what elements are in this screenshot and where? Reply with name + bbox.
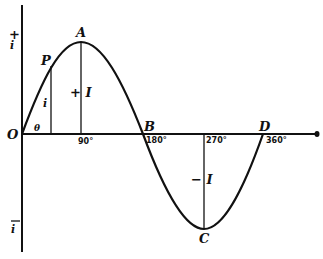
point-c-label: C <box>199 232 209 245</box>
point-o-label: O <box>7 128 18 141</box>
sine-wave-diagram <box>0 0 323 259</box>
point-p-label: P <box>41 54 51 67</box>
point-b-label: B <box>144 120 155 133</box>
axis-arrow-icon <box>315 131 320 137</box>
pos-i-label: i <box>10 40 14 51</box>
tick-360: 360° <box>266 137 287 145</box>
point-d-label: D <box>259 120 270 133</box>
tick-90: 90° <box>78 138 93 146</box>
point-a-label: A <box>76 26 86 39</box>
pos-amplitude-label: + I <box>70 86 92 99</box>
tick-180: 180° <box>146 137 167 145</box>
theta-label: θ <box>34 124 40 133</box>
sine-curve <box>22 42 263 229</box>
neg-amplitude-label: − I <box>191 173 213 186</box>
tick-270: 270° <box>206 137 227 145</box>
instant-i-label: i <box>43 98 47 109</box>
neg-i-label: i <box>11 224 15 235</box>
